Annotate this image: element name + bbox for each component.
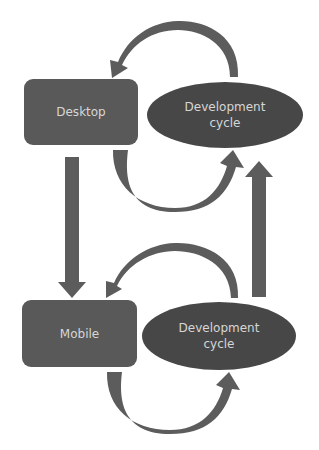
desktop-cycle-label-line1: Development bbox=[185, 99, 266, 115]
mobile-cycle-label-line1: Development bbox=[179, 320, 260, 336]
arrow-mobile-to-desktop-cycle bbox=[245, 161, 273, 297]
desktop-cycle-label: Development cycle bbox=[147, 82, 303, 148]
desktop-label: Desktop bbox=[24, 79, 138, 145]
mobile-cycle-label-line2: cycle bbox=[203, 336, 234, 352]
arrow-desktop-to-mobile bbox=[58, 157, 86, 298]
mobile-label-text: Mobile bbox=[60, 326, 99, 342]
desktop-label-text: Desktop bbox=[56, 104, 106, 120]
arrow-mobile-to-cycle bbox=[107, 372, 240, 434]
desktop-cycle-label-line2: cycle bbox=[209, 115, 240, 131]
arrow-mobile-cycle-to-mobile bbox=[106, 243, 238, 298]
arrow-cycle-to-desktop bbox=[110, 21, 238, 78]
diagram-canvas bbox=[0, 0, 319, 450]
mobile-label: Mobile bbox=[22, 300, 137, 367]
arrow-desktop-to-cycle bbox=[113, 150, 244, 212]
mobile-cycle-label: Development cycle bbox=[142, 302, 296, 370]
